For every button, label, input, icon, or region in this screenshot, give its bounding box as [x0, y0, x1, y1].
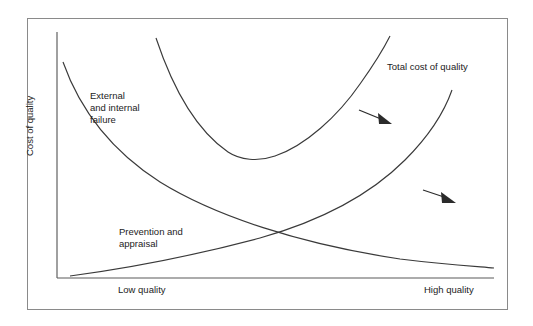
annotation-external-internal-failure: External and internal failure — [90, 90, 140, 126]
curve-total-cost-of-quality — [156, 36, 390, 159]
y-axis-label: Cost of quality — [24, 56, 36, 156]
arrow-failure — [423, 190, 456, 203]
annotation-total-cost-of-quality: Total cost of quality — [387, 61, 468, 73]
x-axis-label-high-quality: High quality — [424, 284, 474, 296]
figure-container: External and internal failure Prevention… — [0, 0, 533, 326]
arrow-total-cost — [359, 110, 392, 124]
x-axis-label-low-quality: Low quality — [118, 284, 166, 296]
chart-plot — [0, 0, 533, 326]
annotation-prevention-appraisal: Prevention and appraisal — [119, 226, 183, 250]
